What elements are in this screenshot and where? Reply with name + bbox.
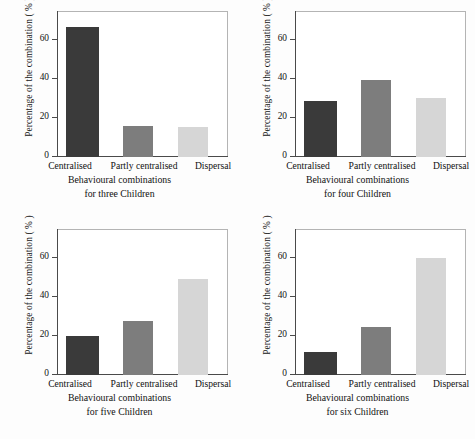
category-label-partly-centralised: Partly centralised bbox=[101, 160, 187, 171]
x-axis-title-line1: Behavioural combinations bbox=[12, 174, 227, 185]
y-tick-label-0: 0 bbox=[44, 150, 49, 160]
category-label-dispersal: Dispersal bbox=[423, 378, 475, 389]
y-tick-label-0: 0 bbox=[282, 150, 287, 160]
chart-panel-five-children: Percentage of the combination ( % ) 0 20… bbox=[0, 218, 237, 437]
bar-partly-centralised[interactable] bbox=[123, 126, 153, 157]
x-axis-title-line2: for three Children bbox=[12, 188, 227, 199]
category-labels: Centralised Partly centralised Dispersal bbox=[275, 378, 475, 391]
y-tick-label-60: 60 bbox=[278, 251, 287, 261]
bar-centralised[interactable] bbox=[66, 27, 99, 157]
bar-partly-centralised[interactable] bbox=[361, 80, 391, 157]
bar-group bbox=[57, 11, 228, 157]
chart-panel-three-children: Percentage of the combination ( % ) 0 20… bbox=[0, 0, 237, 219]
bar-centralised[interactable] bbox=[304, 101, 337, 157]
y-tick-label-40: 40 bbox=[278, 290, 287, 300]
category-label-partly-centralised: Partly centralised bbox=[339, 378, 425, 389]
y-tick-label-60: 60 bbox=[40, 251, 49, 261]
bar-dispersal[interactable] bbox=[416, 98, 446, 157]
category-label-dispersal: Dispersal bbox=[185, 378, 241, 389]
x-axis-title-line1: Behavioural combinations bbox=[12, 392, 227, 403]
chart-panel-four-children: Percentage of the combination ( % ) 0 20… bbox=[238, 0, 475, 219]
category-label-centralised: Centralised bbox=[37, 160, 103, 171]
y-axis-title: Percentage of the combination ( % ) bbox=[24, 0, 34, 143]
category-label-centralised: Centralised bbox=[37, 378, 103, 389]
category-label-centralised: Centralised bbox=[275, 160, 341, 171]
bar-partly-centralised[interactable] bbox=[361, 327, 391, 375]
category-label-dispersal: Dispersal bbox=[423, 160, 475, 171]
y-axis-title: Percentage of the combination ( % ) bbox=[24, 209, 34, 361]
category-label-centralised: Centralised bbox=[275, 378, 341, 389]
y-tick-label-0: 0 bbox=[44, 368, 49, 378]
category-labels: Centralised Partly centralised Dispersal bbox=[37, 160, 237, 173]
bar-dispersal[interactable] bbox=[416, 258, 446, 375]
y-tick-label-40: 40 bbox=[40, 290, 49, 300]
x-axis-title-line2: for four Children bbox=[250, 188, 465, 199]
y-tick-label-20: 20 bbox=[40, 329, 49, 339]
category-labels: Centralised Partly centralised Dispersal bbox=[275, 160, 475, 173]
bar-dispersal[interactable] bbox=[178, 127, 208, 157]
bar-centralised[interactable] bbox=[304, 352, 337, 375]
y-tick-label-0: 0 bbox=[282, 368, 287, 378]
y-tick-label-20: 20 bbox=[40, 111, 49, 121]
category-label-partly-centralised: Partly centralised bbox=[101, 378, 187, 389]
y-tick-label-60: 60 bbox=[40, 33, 49, 43]
bar-dispersal[interactable] bbox=[178, 279, 208, 375]
bar-centralised[interactable] bbox=[66, 336, 99, 375]
bar-partly-centralised[interactable] bbox=[123, 321, 153, 376]
figure-root: Percentage of the combination ( % ) 0 20… bbox=[0, 0, 475, 439]
category-labels: Centralised Partly centralised Dispersal bbox=[37, 378, 237, 391]
x-axis-title-line1: Behavioural combinations bbox=[250, 392, 465, 403]
y-tick-label-20: 20 bbox=[278, 111, 287, 121]
y-tick-label-60: 60 bbox=[278, 33, 287, 43]
y-tick-label-40: 40 bbox=[40, 72, 49, 82]
x-axis-title-line1: Behavioural combinations bbox=[250, 174, 465, 185]
y-tick-label-40: 40 bbox=[278, 72, 287, 82]
bar-group bbox=[295, 229, 466, 375]
bar-group bbox=[295, 11, 466, 157]
bar-group bbox=[57, 229, 228, 375]
category-label-partly-centralised: Partly centralised bbox=[339, 160, 425, 171]
y-axis-title: Percentage of the combination ( % ) bbox=[262, 209, 272, 361]
x-axis-title-line2: for five Children bbox=[12, 406, 227, 417]
category-label-dispersal: Dispersal bbox=[185, 160, 241, 171]
y-axis-title: Percentage of the combination ( % ) bbox=[262, 0, 272, 143]
y-tick-label-20: 20 bbox=[278, 329, 287, 339]
x-axis-title-line2: for six Children bbox=[250, 406, 465, 417]
chart-panel-six-children: Percentage of the combination ( % ) 0 20… bbox=[238, 218, 475, 437]
